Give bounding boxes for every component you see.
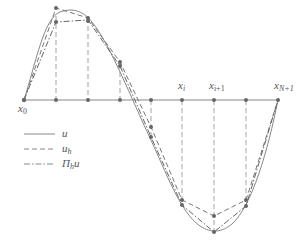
label-x0: x0 — [17, 102, 27, 116]
axis-node — [149, 98, 153, 102]
axis-node — [86, 98, 90, 102]
pihu-node — [180, 203, 184, 207]
label-xi: xi — [177, 79, 185, 93]
axis-node — [180, 98, 184, 102]
legend-label-uh: uh — [62, 142, 72, 156]
uh-node — [54, 6, 58, 10]
pihu-node — [212, 230, 216, 234]
label-xN1: xN+1 — [273, 79, 294, 93]
pihu-node — [54, 20, 58, 24]
fem-interpolation-diagram: x0 xi xi+1 xN+1 u uh Πhu — [0, 0, 308, 243]
legend-label-u: u — [62, 127, 68, 139]
legend-label-pihu: Πhu — [61, 157, 80, 171]
uh-node — [244, 198, 248, 202]
axis-node — [212, 98, 216, 102]
axis-node — [276, 98, 280, 102]
uh-node — [212, 214, 216, 218]
uh-node — [118, 60, 122, 64]
node-dropline-group — [56, 16, 246, 232]
axis-node — [118, 98, 122, 102]
legend: u uh Πhu — [24, 127, 80, 171]
pihu-node — [86, 19, 90, 23]
uh-node — [180, 198, 184, 202]
pihu-node — [244, 204, 248, 208]
axis-node — [54, 98, 58, 102]
pihu-node — [118, 64, 122, 68]
uh-node — [149, 125, 153, 129]
label-xi1: xi+1 — [208, 79, 225, 93]
axis-node — [244, 98, 248, 102]
pihu-node — [149, 135, 153, 139]
